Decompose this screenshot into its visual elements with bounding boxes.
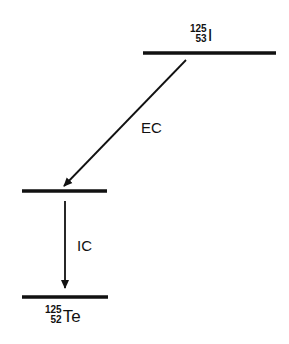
parent-nuclide-label: 125 53 I	[190, 24, 212, 44]
parent-atomic-number: 53	[196, 34, 207, 44]
daughter-symbol: Te	[63, 308, 81, 325]
daughter-nuclide-label: 125 52 Te	[45, 305, 81, 325]
decay-scheme-canvas	[0, 0, 289, 344]
ic-label: IC	[77, 237, 92, 254]
daughter-atomic-number: 52	[51, 315, 62, 325]
ec-arrow	[64, 60, 186, 186]
ec-label: EC	[141, 119, 162, 136]
parent-symbol: I	[208, 27, 213, 44]
